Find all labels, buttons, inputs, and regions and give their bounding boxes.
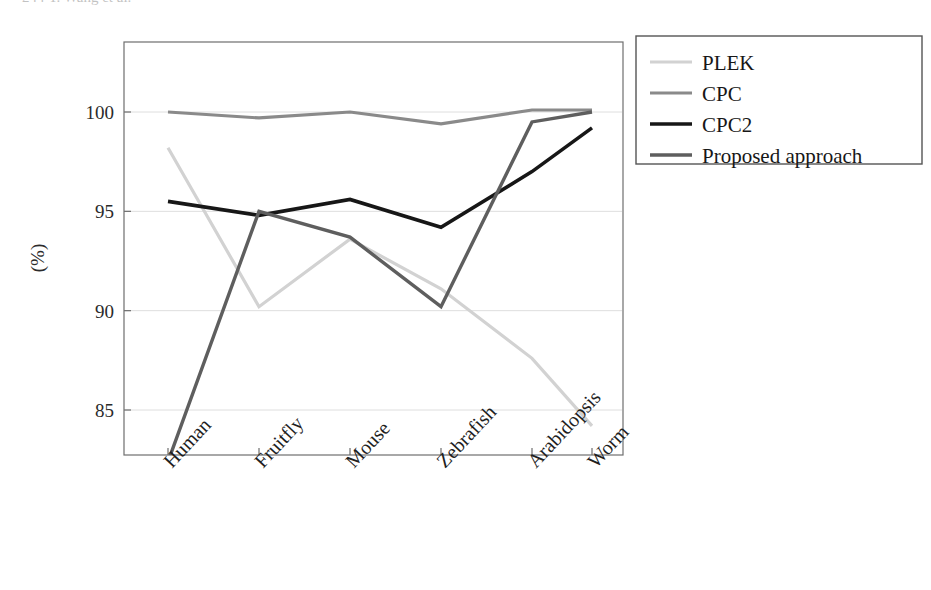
x-label-worm: Worm: [583, 420, 633, 472]
x-axis-category-labels: HumanFruitflyMouseZebrafishArabidopsisWo…: [159, 386, 633, 473]
line-chart-figure: 859095100 HumanFruitflyMouseZebrafishAra…: [0, 0, 931, 590]
y-tick-label-95: 95: [95, 201, 114, 222]
legend-label-proposed-approach: Proposed approach: [702, 144, 863, 168]
y-axis-ticks: [124, 112, 131, 410]
legend-label-cpc: CPC: [702, 82, 742, 106]
legend-label-plek: PLEK: [702, 51, 755, 75]
x-label-human: Human: [159, 414, 215, 472]
y-tick-label-90: 90: [95, 301, 114, 322]
series-layer: [168, 110, 592, 462]
y-tick-label-100: 100: [86, 102, 115, 123]
y-axis-title: (%): [27, 244, 49, 272]
legend-label-cpc2: CPC2: [702, 113, 752, 137]
chart-legend: PLEKCPCCPC2Proposed approach: [636, 36, 922, 168]
svg-text:(%): (%): [27, 244, 49, 272]
x-label-mouse: Mouse: [341, 417, 394, 472]
x-label-fruitfly: Fruitfly: [250, 412, 309, 472]
y-axis-tick-labels: 859095100: [86, 102, 115, 421]
gridlines: [125, 112, 622, 410]
chart-svg: 859095100 HumanFruitflyMouseZebrafishAra…: [0, 0, 931, 590]
y-tick-label-85: 85: [95, 400, 114, 421]
series-line-proposed-approach: [168, 112, 592, 462]
series-line-cpc2: [168, 128, 592, 227]
x-label-zebrafish: Zebrafish: [432, 401, 500, 472]
plot-frame: [124, 42, 623, 455]
